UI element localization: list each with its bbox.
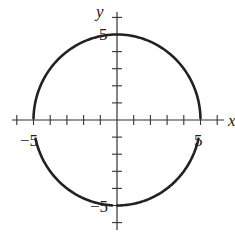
circle-arc	[117, 139, 198, 206]
x-tick-label-pos5: 5	[194, 131, 203, 150]
axes	[12, 12, 224, 230]
plot-area: y x −5 5 5 −5	[0, 0, 235, 238]
circle-graph: y x −5 5 5 −5	[0, 0, 235, 238]
circle-arc	[36, 139, 112, 206]
x-tick-label-neg5: −5	[20, 131, 38, 150]
y-tick-label-pos5: 5	[99, 25, 108, 44]
x-axis-label: x	[227, 111, 235, 130]
y-tick-label-neg5: −5	[90, 197, 108, 216]
y-axis-label: y	[94, 2, 104, 21]
